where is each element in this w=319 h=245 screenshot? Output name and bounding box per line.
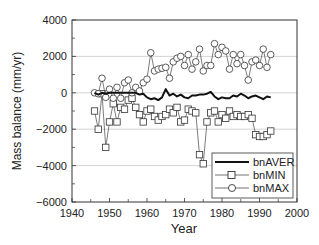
square-marker [215, 119, 221, 125]
circle-marker [117, 95, 124, 102]
circle-marker [177, 53, 184, 60]
x-tick-label: 1980 [210, 207, 234, 219]
y-tick-label: −4000 [36, 160, 67, 172]
legend-label-bnmax: bnMAX [253, 182, 290, 194]
x-tick-label: 1990 [247, 207, 271, 219]
circle-marker [102, 94, 109, 101]
x-tick-label: 2000 [285, 207, 309, 219]
circle-marker [181, 62, 188, 69]
circle-marker [222, 48, 229, 55]
circle-marker [226, 66, 233, 73]
square-marker [133, 104, 139, 110]
x-tick-label: 1970 [172, 207, 196, 219]
circle-marker [106, 86, 113, 93]
legend: bnAVER bnMIN bnMAX [212, 153, 294, 198]
square-marker [223, 115, 229, 121]
square-marker [91, 108, 97, 114]
circle-marker [185, 51, 192, 58]
circle-marker [260, 46, 267, 53]
square-marker [181, 117, 187, 123]
square-marker [106, 119, 112, 125]
y-tick-label: 0 [61, 87, 67, 99]
square-marker [121, 106, 127, 112]
square-marker [193, 110, 199, 116]
square-marker [174, 104, 180, 110]
square-marker-icon [228, 172, 235, 179]
x-axis-label: Year [171, 221, 198, 236]
square-marker [204, 119, 210, 125]
circle-marker-icon [229, 185, 236, 192]
legend-label-bnmin: bnMIN [253, 169, 285, 181]
circle-marker [147, 49, 154, 56]
circle-marker [211, 40, 218, 47]
circle-marker [215, 51, 222, 58]
circle-marker [241, 62, 248, 69]
circle-marker [99, 75, 106, 82]
y-tick-label: −2000 [36, 123, 67, 135]
square-marker [200, 161, 206, 167]
circle-marker [114, 84, 121, 91]
circle-marker [125, 77, 132, 84]
square-marker [114, 119, 120, 125]
circle-marker [207, 62, 214, 69]
circle-marker [192, 59, 199, 66]
square-marker [249, 115, 255, 121]
circle-marker [245, 77, 252, 84]
circle-marker [189, 66, 196, 73]
x-tick-label: 1940 [60, 207, 84, 219]
y-tick-label: 4000 [43, 14, 67, 26]
square-marker [268, 128, 274, 134]
series-layer [91, 40, 274, 167]
circle-marker [237, 51, 244, 58]
y-axis-label: Mass balance (mm/yr) [10, 52, 24, 171]
x-tick-label: 1960 [135, 207, 159, 219]
circle-marker [144, 76, 151, 83]
x-tick-label: 1950 [97, 207, 121, 219]
series-line [95, 44, 271, 99]
circle-marker [267, 51, 274, 58]
square-marker [148, 106, 154, 112]
chart: 400020000−2000−4000−60001940195019601970… [0, 0, 319, 245]
square-marker [103, 144, 109, 150]
line-chart: 400020000−2000−4000−60001940195019601970… [0, 0, 319, 245]
circle-marker [230, 51, 237, 58]
circle-marker [162, 64, 169, 71]
circle-marker [264, 64, 271, 71]
circle-marker [234, 60, 241, 67]
circle-marker [166, 75, 173, 82]
square-marker [140, 119, 146, 125]
circle-marker [196, 46, 203, 53]
legend-label-bnaver: bnAVER [253, 156, 294, 168]
square-marker [95, 126, 101, 132]
circle-marker [256, 62, 263, 69]
circle-marker [110, 95, 117, 102]
square-marker [196, 151, 202, 157]
square-marker [211, 108, 217, 114]
square-marker [136, 111, 142, 117]
y-tick-label: 2000 [43, 50, 67, 62]
